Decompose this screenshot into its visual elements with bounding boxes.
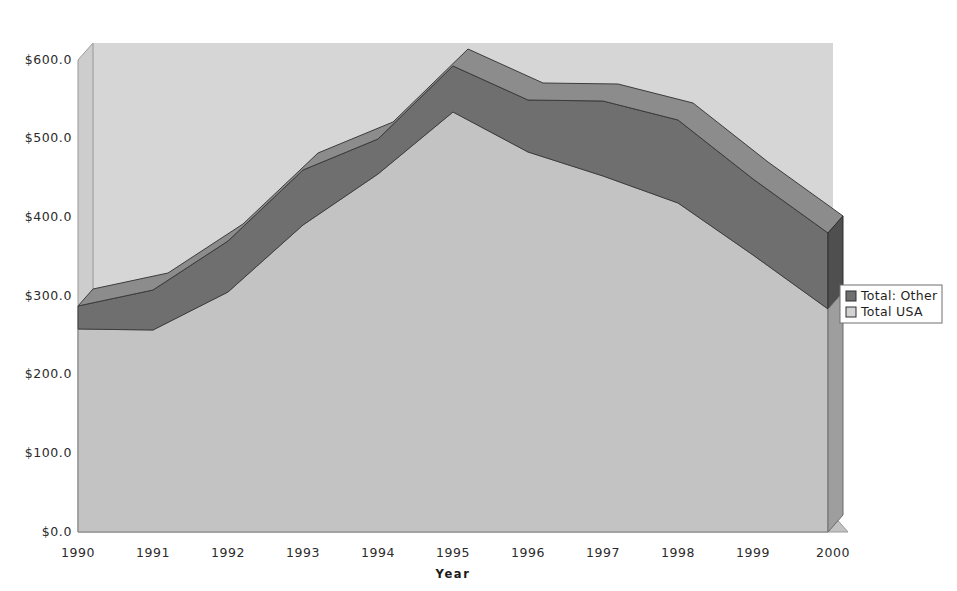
xtick-label-1996: 1996 xyxy=(511,545,545,560)
xtick-label-1992: 1992 xyxy=(211,545,245,560)
legend: Total: Other Total USA xyxy=(840,285,942,323)
xtick-label-1991: 1991 xyxy=(136,545,170,560)
xtick-label-1994: 1994 xyxy=(361,545,395,560)
ytick-label-600: $600.0 xyxy=(25,52,72,67)
area-total-usa-side-face xyxy=(828,292,843,532)
ytick-label-100: $100.0 xyxy=(25,445,72,460)
legend-label-total-other: Total: Other xyxy=(860,288,938,303)
ytick-label-500: $500.0 xyxy=(25,130,72,145)
legend-label-total-usa: Total USA xyxy=(860,304,923,319)
x-axis-title: Year xyxy=(435,567,471,581)
legend-swatch-total-usa xyxy=(846,307,856,317)
xtick-label-1990: 1990 xyxy=(61,545,95,560)
y-axis: $600.0 $500.0 $400.0 $300.0 $200.0 $100.… xyxy=(25,52,72,539)
xtick-label-2000: 2000 xyxy=(816,545,850,560)
xtick-label-1997: 1997 xyxy=(586,545,620,560)
chart-container: $600.0 $500.0 $400.0 $300.0 $200.0 $100.… xyxy=(0,0,957,591)
xtick-label-1995: 1995 xyxy=(436,545,470,560)
legend-swatch-total-other xyxy=(846,291,856,301)
ytick-label-300: $300.0 xyxy=(25,288,72,303)
ytick-label-400: $400.0 xyxy=(25,209,72,224)
area-chart-3d: $600.0 $500.0 $400.0 $300.0 $200.0 $100.… xyxy=(0,0,957,591)
ytick-label-200: $200.0 xyxy=(25,366,72,381)
xtick-label-1998: 1998 xyxy=(661,545,695,560)
x-axis: 1990 1991 1992 1993 1994 1995 1996 1997 … xyxy=(61,545,850,581)
ytick-label-0: $0.0 xyxy=(42,524,72,539)
xtick-label-1993: 1993 xyxy=(286,545,320,560)
xtick-label-1999: 1999 xyxy=(736,545,770,560)
